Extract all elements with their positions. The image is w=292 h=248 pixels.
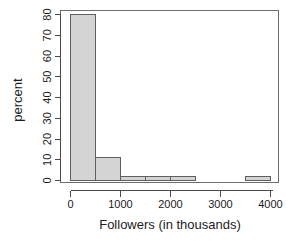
y-axis-tick-label: 20: [41, 133, 53, 145]
y-axis-tick-label: 0: [41, 177, 53, 183]
chart-canvas: 01020304050607080 01000200030004000 Foll…: [0, 0, 292, 248]
histogram-bar: [171, 176, 196, 180]
histogram-bar: [121, 176, 146, 180]
y-axis-tick-label: 60: [41, 50, 53, 62]
histogram-bar: [71, 15, 96, 181]
y-axis-tick-label: 50: [41, 71, 53, 83]
y-axis-tick-label: 80: [41, 8, 53, 20]
y-axis-tick-label: 30: [41, 112, 53, 124]
x-axis-title: Followers (in thousands): [99, 217, 241, 232]
y-axis-title: percent: [10, 78, 25, 122]
histogram-figure: 01020304050607080 01000200030004000 Foll…: [0, 0, 292, 248]
y-axis-tick-label: 70: [41, 29, 53, 41]
y-axis-tick-label: 40: [41, 91, 53, 103]
x-axis-tick-label: 3000: [208, 198, 232, 210]
histogram-bar: [246, 176, 271, 180]
x-axis-tick-label: 4000: [258, 198, 282, 210]
x-axis-tick-label: 0: [67, 198, 73, 210]
histogram-bar: [146, 176, 171, 180]
y-axis-tick-label: 10: [41, 154, 53, 166]
x-axis-tick-label: 1000: [108, 198, 132, 210]
x-axis-tick-label: 2000: [158, 198, 182, 210]
histogram-bar: [96, 158, 121, 181]
